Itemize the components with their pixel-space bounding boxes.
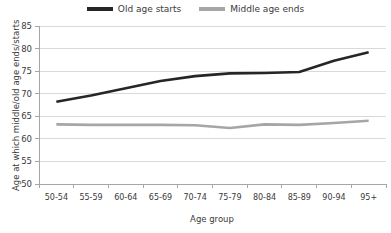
y-tick-label: 55	[21, 156, 32, 166]
plot-area: 5055606570758085 50-5455-5960-6465-6970-…	[0, 0, 391, 233]
x-tick-label: 95+	[360, 193, 377, 202]
y-axis-ticks: 5055606570758085	[21, 21, 39, 189]
y-tick-label: 60	[21, 134, 32, 144]
x-tick-label: 50-54	[45, 193, 68, 202]
x-axis-ticks: 50-5455-5960-6465-6970-7475-7980-8485-89…	[39, 184, 386, 202]
chart-container: Old age starts Middle age ends Age at wh…	[0, 0, 391, 233]
x-tick-label: 55-59	[79, 193, 102, 202]
plot-svg: 5055606570758085 50-5455-5960-6465-6970-…	[0, 0, 391, 233]
y-tick-label: 70	[21, 89, 32, 99]
y-tick-label: 80	[21, 44, 32, 54]
y-tick-label: 85	[21, 21, 32, 31]
x-tick-label: 60-64	[114, 193, 137, 202]
y-tick-label: 75	[21, 66, 32, 76]
x-tick-label: 80-84	[253, 193, 276, 202]
x-tick-label: 85-89	[288, 193, 311, 202]
y-tick-label: 50	[21, 179, 32, 189]
x-tick-label: 90-94	[322, 193, 345, 202]
series-line-old-age-starts	[56, 52, 368, 102]
series-line-middle-age-ends	[56, 121, 368, 128]
y-tick-label: 65	[21, 111, 32, 121]
x-tick-label: 75-79	[218, 193, 241, 202]
x-tick-label: 65-69	[149, 193, 172, 202]
x-tick-label: 70-74	[184, 193, 207, 202]
gridlines	[39, 26, 386, 184]
